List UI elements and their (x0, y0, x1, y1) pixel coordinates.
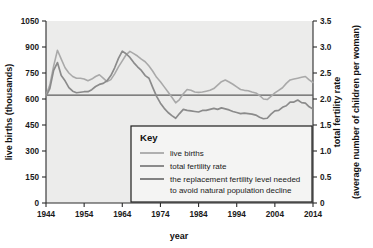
y-axis-left-tick-label: 1050 (21, 17, 40, 26)
x-axis-tick-label: 1994 (228, 210, 247, 219)
y-axis-left-tick-label: 600 (25, 95, 39, 104)
y-axis-right-tick-label: 1.5 (320, 121, 332, 130)
y-axis-left-tick-label: 450 (25, 121, 39, 130)
y-axis-right-ticks: 00.51.01.52.02.53.03.5 (313, 17, 332, 208)
y-axis-left-tick-label: 150 (25, 173, 39, 182)
x-axis-tick-label: 2004 (266, 210, 285, 219)
x-axis-tick-label: 1964 (113, 210, 132, 219)
x-axis-tick-label: 1954 (75, 210, 94, 219)
y-axis-right-tick-label: 0 (320, 199, 325, 208)
y-axis-right-tick-label: 0.5 (320, 173, 332, 182)
y-axis-right-tick-label: 3.0 (320, 43, 332, 52)
x-axis-tick-label: 1974 (151, 210, 170, 219)
y-axis-right-title-line1: total fertility rate (332, 77, 342, 148)
y-axis-right-title-line2: (average number of children per woman) (351, 25, 361, 199)
legend-title: Key (140, 132, 158, 143)
x-axis-tick-label: 1984 (189, 210, 208, 219)
y-axis-left-tick-label: 0 (34, 199, 39, 208)
legend-label-live-births: live births (170, 149, 204, 158)
y-axis-left-tick-label: 900 (25, 43, 39, 52)
y-axis-left-title: live births (thousands) (4, 64, 14, 161)
y-axis-left-ticks: 01503004506007509001050 (21, 17, 46, 208)
y-axis-right-tick-label: 3.5 (320, 17, 332, 26)
x-axis-ticks: 19441954196419741984199420042014 (37, 203, 323, 219)
x-axis-title: year (170, 231, 189, 241)
y-axis-right-tick-label: 2.0 (320, 95, 332, 104)
y-axis-right-tick-label: 2.5 (320, 69, 332, 78)
legend-label-total-fertility-rate: total fertility rate (170, 162, 227, 171)
fertility-chart: 01503004506007509001050 00.51.01.52.02.5… (0, 0, 373, 248)
x-axis-tick-label: 1944 (37, 210, 56, 219)
chart-svg: 01503004506007509001050 00.51.01.52.02.5… (0, 0, 373, 248)
x-axis-tick-label: 2014 (304, 210, 323, 219)
y-axis-left-tick-label: 300 (25, 147, 39, 156)
y-axis-left-tick-label: 750 (25, 69, 39, 78)
legend-label-replacement-level-line1: the replacement fertility level needed (170, 175, 300, 184)
y-axis-right-tick-label: 1.0 (320, 147, 332, 156)
legend-label-replacement-level-line2: to avoid natural population decline (170, 186, 292, 195)
legend: Key live births total fertility rate the… (131, 126, 312, 202)
